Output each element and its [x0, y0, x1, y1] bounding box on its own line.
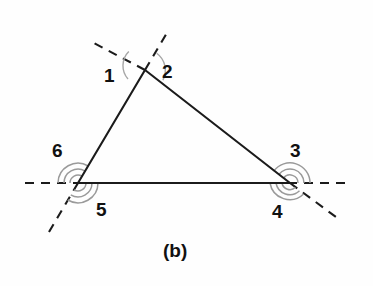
angle-label-5: 5 — [96, 200, 107, 219]
triangle-right-side — [145, 70, 290, 183]
angle-1-arc-group — [123, 52, 129, 79]
angle-1-arc — [123, 52, 129, 79]
angle-3-arc-group — [274, 163, 310, 183]
figure-caption: (b) — [163, 241, 187, 260]
angle-label-3: 3 — [290, 141, 301, 160]
triangle-left-side — [78, 70, 145, 183]
angle-label-6: 6 — [52, 141, 63, 160]
right-side-extension-down-ray — [290, 183, 336, 217]
triangle-group — [78, 70, 290, 183]
angle-4-arc-group — [270, 183, 304, 200]
angle-5-arc-outer — [68, 183, 98, 203]
angle-label-2: 2 — [162, 62, 173, 81]
right-side-extension-up-ray — [90, 41, 145, 70]
geometry-figure: 1 2 3 4 5 6 (b) — [0, 0, 373, 286]
angle-5-arc-group — [68, 183, 98, 203]
angle-label-4: 4 — [272, 202, 283, 221]
angle-label-1: 1 — [104, 66, 115, 85]
